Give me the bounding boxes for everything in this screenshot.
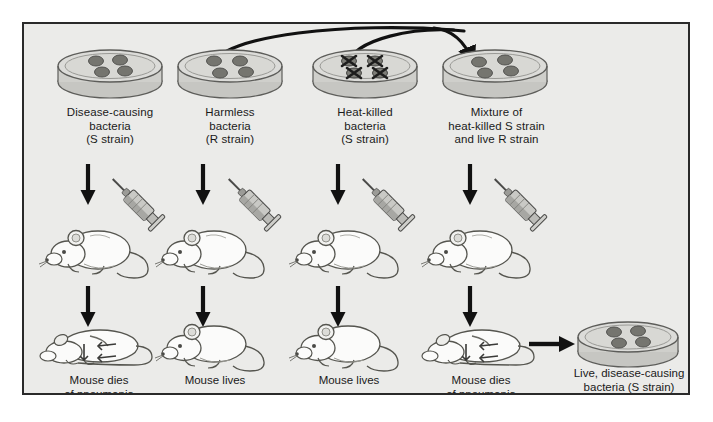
colony	[612, 338, 627, 348]
colony	[498, 55, 513, 65]
outcome-label-4: Mouse dies of pneumonia	[420, 374, 542, 395]
mouse-injected-4	[424, 214, 536, 284]
colony	[607, 327, 622, 337]
dish-label-3: Heat-killed bacteria (S strain)	[301, 106, 429, 147]
dish-inner-rim	[320, 54, 410, 79]
arrow-to-final-dish	[529, 334, 577, 354]
dish-inner-rim	[185, 54, 275, 79]
colony	[89, 56, 104, 66]
petri-dish-3	[307, 42, 423, 100]
mouse-alive-2	[158, 312, 270, 378]
colony	[207, 56, 222, 66]
mouse-injected-2	[158, 214, 270, 284]
colony	[631, 326, 646, 336]
mouse-injected-1	[42, 214, 154, 284]
colony-killed	[373, 68, 388, 78]
mouse-snout	[40, 351, 56, 361]
figure-panel: Disease-causing bacteria (S strain) Harm…	[22, 22, 690, 395]
colony	[213, 68, 228, 78]
mouse-eye	[62, 250, 66, 254]
arrow-dish-to-mouse-1	[79, 164, 97, 206]
colony	[113, 55, 128, 65]
arrow-dish-to-mouse-2	[194, 164, 212, 206]
mouse-alive-3	[292, 312, 404, 378]
outcome-label-3: Mouse lives	[288, 374, 410, 388]
syringe-needle	[112, 178, 125, 191]
petri-dish-1	[52, 42, 168, 100]
petri-dish-4	[437, 42, 553, 100]
arrow-dish-to-mouse-4	[461, 164, 479, 206]
final-dish-label: Live, disease-causing bacteria (S strain…	[549, 367, 690, 394]
colony-killed	[342, 56, 357, 66]
colony	[239, 67, 254, 77]
mouse-whiskers	[39, 261, 47, 267]
dish-inner-rim	[450, 54, 540, 79]
mouse-ear-inner	[72, 234, 80, 242]
colony-killed	[347, 68, 362, 78]
colony	[636, 337, 651, 347]
colony	[478, 68, 493, 78]
dish-label-2: Harmless bacteria (R strain)	[166, 106, 294, 147]
mouse-injected-3	[292, 214, 404, 284]
mouse-dead-1	[38, 320, 160, 376]
arrow-dish-to-mouse-3	[329, 164, 347, 206]
colony	[504, 66, 519, 76]
colony-killed	[368, 56, 383, 66]
colony	[95, 67, 110, 77]
colony	[233, 56, 248, 66]
petri-dish-final	[572, 314, 688, 372]
dish-inner-rim	[585, 325, 671, 349]
dish-inner-rim	[65, 54, 155, 79]
dish-label-1: Disease-causing bacteria (S strain)	[40, 106, 180, 147]
outcome-label-1: Mouse dies of pneumonia	[38, 374, 160, 395]
outcome-label-2: Mouse lives	[154, 374, 276, 388]
petri-dish-2	[172, 42, 288, 100]
dish-label-4: Mixture of heat-killed S strain and live…	[419, 106, 574, 147]
colony	[118, 66, 133, 76]
mouse-dead-4	[420, 320, 542, 376]
colony	[472, 57, 487, 67]
